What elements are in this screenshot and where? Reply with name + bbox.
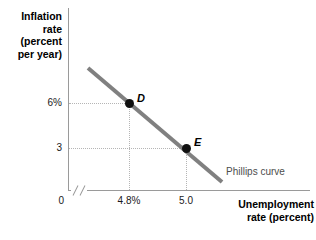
data-point-e: [182, 144, 191, 153]
series-label-phillips-curve: Phillips curve: [226, 166, 285, 177]
data-point-label-e: E: [194, 136, 201, 148]
phillips-curve-chart: Inflation rate (percent per year) Unempl…: [0, 0, 316, 240]
phillips-curve-line: [0, 0, 316, 240]
data-point-d: [125, 99, 134, 108]
data-point-label-d: D: [137, 92, 145, 104]
